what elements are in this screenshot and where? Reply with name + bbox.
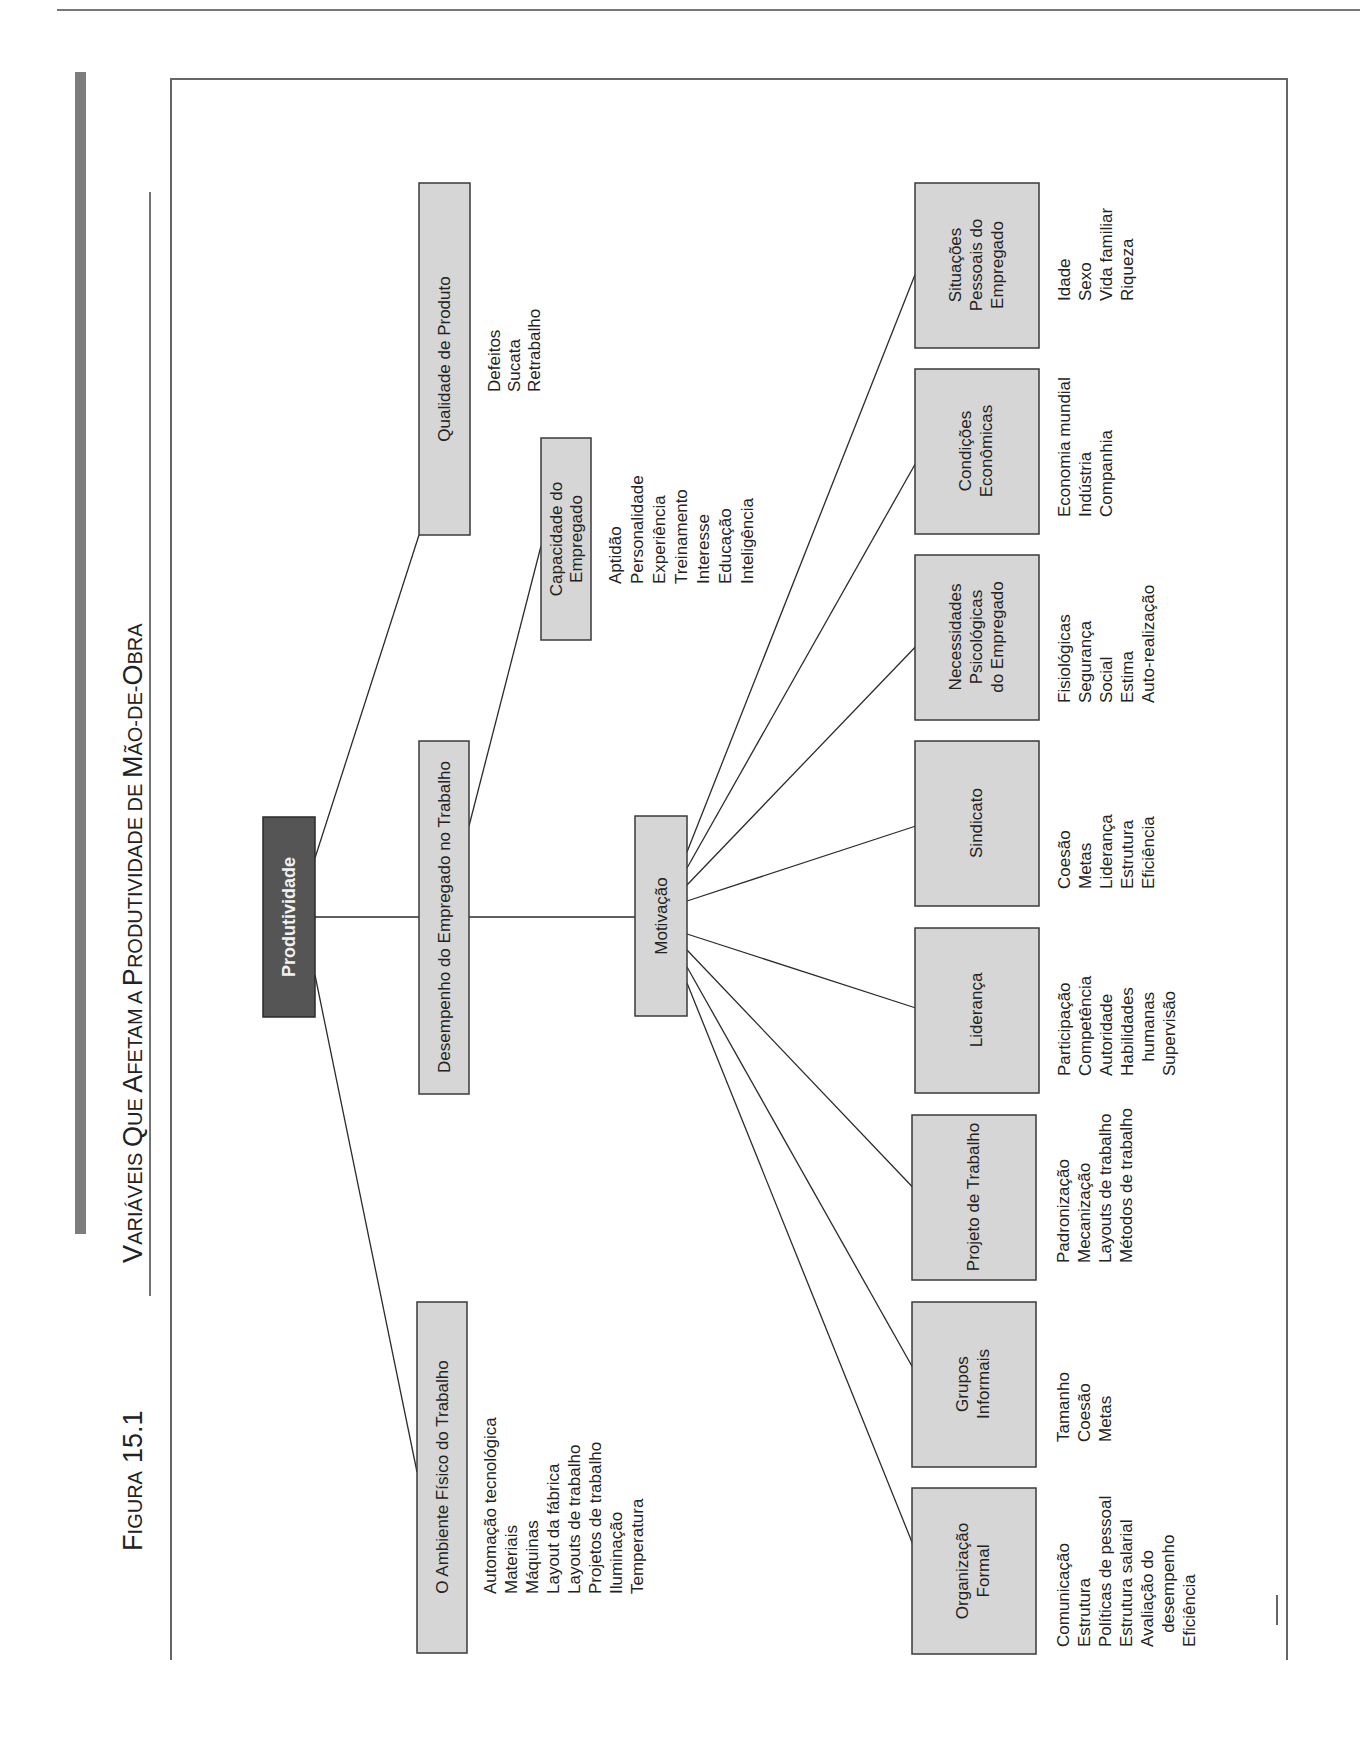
- list-condicoes-items: Economia mundial Indústria Companhia: [1055, 377, 1116, 517]
- node-produtividade-label: Produtividade: [279, 857, 299, 977]
- svg-text:Situações: Situações: [946, 228, 965, 303]
- node-condicoes-economicas: Condições Econômicas: [915, 369, 1039, 534]
- svg-text:Estrutura: Estrutura: [1118, 819, 1137, 889]
- svg-text:do Empregado: do Empregado: [988, 581, 1007, 693]
- svg-text:Riqueza: Riqueza: [1118, 238, 1137, 301]
- svg-text:Psicológicas: Psicológicas: [967, 590, 986, 685]
- svg-text:Automação tecnológica: Automação tecnológica: [481, 1417, 500, 1594]
- node-desempenho-label: Desempenho do Empregado no Trabalho: [435, 761, 454, 1073]
- svg-text:Projetos de trabalho: Projetos de trabalho: [586, 1442, 605, 1594]
- svg-text:Máquinas: Máquinas: [523, 1520, 542, 1594]
- list-capacidade-items: Aptidão Personalidade Experiência Treina…: [606, 475, 757, 584]
- svg-text:Eficiência: Eficiência: [1180, 1574, 1199, 1647]
- svg-text:Políticas de pessoal: Políticas de pessoal: [1096, 1496, 1115, 1647]
- node-ambiente-label: O Ambiente Físico do Trabalho: [433, 1360, 452, 1593]
- node-capacidade-label-2: Empregado: [567, 495, 586, 583]
- figure-label: FIGURA15.1: [118, 1388, 148, 1582]
- svg-text:Indústria: Indústria: [1076, 451, 1095, 517]
- list-projeto-items: Padronização Mecanização Layouts de trab…: [1054, 1108, 1136, 1263]
- node-ambiente-fisico: O Ambiente Físico do Trabalho: [417, 1302, 467, 1653]
- node-desempenho: Desempenho do Empregado no Trabalho: [419, 741, 469, 1094]
- svg-text:Tamanho: Tamanho: [1054, 1372, 1073, 1442]
- node-grupos-informais: Grupos Informais: [912, 1302, 1036, 1467]
- svg-text:Liderança: Liderança: [1097, 814, 1116, 889]
- svg-text:Aptidão: Aptidão: [606, 526, 625, 584]
- svg-text:Coesão: Coesão: [1075, 1383, 1094, 1442]
- svg-text:Avaliação do: Avaliação do: [1138, 1550, 1157, 1647]
- svg-text:Temperatura: Temperatura: [628, 1498, 647, 1594]
- svg-text:Materiais: Materiais: [502, 1525, 521, 1594]
- svg-text:Layouts de trabalho: Layouts de trabalho: [565, 1445, 584, 1594]
- svg-text:Estrutura salarial: Estrutura salarial: [1117, 1519, 1136, 1647]
- svg-text:Metas: Metas: [1096, 1396, 1115, 1442]
- svg-text:Vida familiar: Vida familiar: [1097, 207, 1116, 301]
- svg-text:Retrabalho: Retrabalho: [525, 309, 544, 392]
- svg-text:Autoridade: Autoridade: [1097, 994, 1116, 1076]
- node-situacoes-pessoais: Situações Pessoais do Empregado: [915, 183, 1039, 348]
- svg-text:Economia mundial: Economia mundial: [1055, 377, 1074, 517]
- node-qualidade-label: Qualidade de Produto: [435, 276, 454, 441]
- svg-text:Supervisão: Supervisão: [1160, 991, 1179, 1076]
- node-produtividade: Produtividade: [263, 817, 315, 1017]
- svg-text:Condições: Condições: [956, 411, 975, 491]
- list-lideranca-items: Participação Competência Autoridade Habi…: [1055, 975, 1179, 1076]
- node-projeto-de-trabalho: Projeto de Trabalho: [912, 1115, 1036, 1280]
- svg-text:Sucata: Sucata: [505, 339, 524, 392]
- svg-text:Sexo: Sexo: [1076, 262, 1095, 301]
- connectors: [315, 257, 922, 1567]
- svg-text:Coesão: Coesão: [1055, 830, 1074, 889]
- svg-text:Econômicas: Econômicas: [977, 405, 996, 498]
- svg-text:Métodos de trabalho: Métodos de trabalho: [1117, 1108, 1136, 1263]
- svg-text:Sindicato: Sindicato: [967, 788, 986, 858]
- node-sindicato: Sindicato: [915, 741, 1039, 906]
- node-motivacao-label: Motivação: [652, 877, 671, 954]
- svg-text:Experiência: Experiência: [650, 495, 669, 584]
- svg-text:Liderança: Liderança: [967, 972, 986, 1047]
- svg-text:Educação: Educação: [716, 508, 735, 584]
- node-capacidade: Capacidade do Empregado: [541, 438, 591, 640]
- node-organizacao-formal: Organização Formal: [912, 1488, 1036, 1654]
- list-qualidade-items: Defeitos Sucata Retrabalho: [485, 309, 544, 392]
- node-motivacao: Motivação: [635, 816, 687, 1016]
- svg-text:Competência: Competência: [1076, 975, 1095, 1076]
- svg-text:Metas: Metas: [1076, 843, 1095, 889]
- list-organizacao-items: Comunicação Estrutura Políticas de pesso…: [1054, 1496, 1199, 1647]
- svg-text:Layout da fábrica: Layout da fábrica: [544, 1463, 563, 1594]
- svg-text:Estima: Estima: [1118, 651, 1137, 704]
- svg-text:Empregado: Empregado: [988, 221, 1007, 309]
- svg-text:Pessoais do: Pessoais do: [967, 219, 986, 312]
- svg-text:Companhia: Companhia: [1097, 430, 1116, 517]
- svg-text:Informais: Informais: [974, 1349, 993, 1419]
- svg-text:Habilidades: Habilidades: [1118, 987, 1137, 1076]
- svg-text:Social: Social: [1097, 657, 1116, 703]
- svg-text:Defeitos: Defeitos: [485, 330, 504, 392]
- list-necessidades-items: Fisiológicas Segurança Social Estima Aut…: [1055, 585, 1158, 703]
- svg-text:Comunicação: Comunicação: [1054, 1543, 1073, 1647]
- node-necessidades-psicologicas: Necessidades Psicológicas do Empregado: [915, 555, 1039, 720]
- svg-text:Layouts de trabalho: Layouts de trabalho: [1096, 1114, 1115, 1263]
- svg-text:Organização: Organização: [953, 1523, 972, 1619]
- svg-text:Interesse: Interesse: [694, 514, 713, 584]
- figure-title-text: VARIÁVEIS QUE AFETAM A PRODUTIVIDADE DE …: [118, 601, 148, 1294]
- svg-text:Formal: Formal: [974, 1545, 993, 1598]
- svg-text:Padronização: Padronização: [1054, 1159, 1073, 1263]
- productivity-diagram: FIGURA15.1 VARIÁVEIS QUE AFETAM A PRODUT…: [0, 0, 1360, 1742]
- figure-label-text: FIGURA15.1: [118, 1388, 148, 1582]
- svg-text:Necessidades: Necessidades: [946, 584, 965, 691]
- svg-text:Iluminação: Iluminação: [607, 1512, 626, 1594]
- svg-text:humanas: humanas: [1139, 992, 1158, 1076]
- svg-text:Inteligência: Inteligência: [738, 497, 757, 584]
- svg-text:Projeto de Trabalho: Projeto de Trabalho: [964, 1123, 983, 1271]
- figure-title: VARIÁVEIS QUE AFETAM A PRODUTIVIDADE DE …: [118, 601, 148, 1294]
- svg-text:Mecanização: Mecanização: [1075, 1163, 1094, 1263]
- svg-text:Fisiológicas: Fisiológicas: [1055, 614, 1074, 703]
- svg-text:Idade: Idade: [1055, 258, 1074, 301]
- svg-text:desempenho: desempenho: [1159, 1535, 1178, 1647]
- list-sindicato-items: Coesão Metas Liderança Estrutura Eficiên…: [1055, 814, 1158, 889]
- svg-text:Personalidade: Personalidade: [628, 475, 647, 584]
- svg-text:Auto-realização: Auto-realização: [1139, 585, 1158, 703]
- node-lideranca: Liderança: [915, 928, 1039, 1093]
- list-grupos-items: Tamanho Coesão Metas: [1054, 1372, 1115, 1442]
- node-qualidade-de-produto: Qualidade de Produto: [419, 183, 470, 535]
- svg-text:Treinamento: Treinamento: [672, 489, 691, 584]
